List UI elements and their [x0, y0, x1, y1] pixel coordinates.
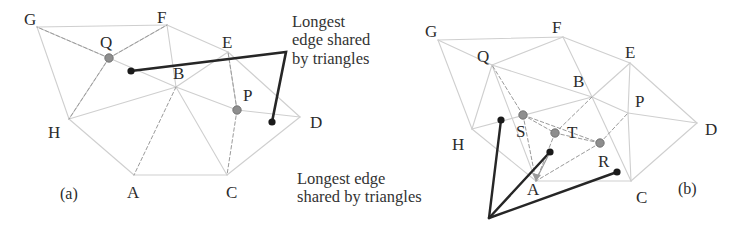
panel-b-vertex-label-H: H: [452, 135, 464, 154]
panel-a-edge: [109, 58, 176, 87]
panel-b-vertex-label-G: G: [425, 22, 437, 41]
panel-a-black-node-edge-start: [127, 67, 134, 74]
panel-a-caption: (a): [60, 185, 78, 203]
panel-b-vertex-label-R: R: [598, 152, 610, 171]
panel-a-annotation: Longestedge sharedby triangles: [292, 13, 370, 68]
panel-a-dashed-edge: [227, 110, 237, 175]
panel-b-vertex-label-F: F: [552, 18, 562, 37]
panel-b-gray-node-T: [551, 129, 559, 137]
panel-b-annotation: Longest edgeshared by triangles: [297, 170, 422, 207]
panel-a-edge: [237, 110, 300, 117]
panel-a-edge: [176, 87, 237, 110]
panel-a-vertex-label-D: D: [310, 113, 322, 132]
panel-b-vertex-label-S: S: [516, 122, 526, 141]
panel-a-vertex-label-C: C: [226, 183, 238, 202]
panel-b-vertex-label-P: P: [635, 92, 645, 111]
panel-a-vertex-label-G: G: [24, 10, 36, 29]
panel-a-vertex-label-Q: Q: [100, 33, 112, 52]
panel-b-annotation-line-1: shared by triangles: [297, 188, 422, 206]
panel-b-edge: [472, 65, 492, 129]
panel-b-edge: [592, 63, 630, 97]
panel-a-gray-node-Q: [105, 54, 113, 62]
panel-b-vertex-label-E: E: [625, 43, 636, 62]
panel-a-gray-node-P: [233, 106, 241, 114]
panel-b-gray-node-S: [519, 111, 527, 119]
panel-a-dashed-edge: [69, 58, 109, 119]
panel-b-vertex-label-D: D: [705, 120, 717, 139]
panel-a-edge: [69, 87, 176, 119]
panel-b-gray-node-R: [596, 139, 604, 147]
panel-a-annotation-line-0: Longest: [292, 13, 370, 31]
panel-a-edge: [227, 117, 300, 175]
panel-a-dashed-edge: [134, 87, 176, 175]
panel-a-vertex-label-H: H: [48, 123, 60, 142]
panel-a-vertex-label-E: E: [222, 33, 233, 52]
panel-a-annotation-line-2: by triangles: [292, 50, 370, 68]
panel-b-vertex-label-B: B: [573, 72, 585, 91]
panel-b-edge: [631, 123, 697, 181]
panel-a-dashed-edge: [37, 27, 109, 58]
panel-a-vertex-label-B: B: [173, 64, 185, 83]
panel-b-annotation-line-0: Longest edge: [297, 170, 422, 188]
panel-b-edge: [438, 37, 563, 40]
panel-b-black-node-fan-node-3: [613, 168, 620, 175]
panel-b-caption: (b): [678, 180, 697, 198]
panel-b-vertex-label-C: C: [636, 188, 648, 207]
panel-b-vertex-label-T: T: [567, 123, 578, 142]
panel-b-edge: [628, 63, 630, 113]
panel-b-edge: [563, 37, 630, 63]
panel-a-vertex-label-F: F: [157, 8, 167, 27]
panel-b-longest-edge-highlight: [489, 172, 617, 218]
panel-a-edge: [176, 87, 227, 175]
panel-b-dashed-edge: [492, 65, 523, 115]
panel-b-vertex-label-A: A: [527, 180, 539, 199]
panel-a-mesh: [37, 25, 300, 175]
panel-b-dashed-edge: [523, 115, 600, 143]
panel-b-edge: [628, 113, 697, 123]
panel-a-edge: [167, 25, 228, 52]
panel-a-edge: [69, 119, 134, 175]
panel-b-black-node-fan-node-2: [546, 148, 553, 155]
panel-a-edge: [37, 27, 69, 119]
panel-b-edge: [592, 97, 628, 113]
panel-b-longest-edge-highlight: [489, 120, 501, 218]
panel-b-dashed-edge: [600, 113, 628, 143]
panel-a-vertex-label-P: P: [243, 86, 253, 105]
panel-b-vertex-label-Q: Q: [477, 47, 489, 66]
panel-a-annotation-line-1: edge shared: [292, 31, 370, 49]
panel-a-black-node-edge-end: [268, 118, 275, 125]
panel-b-black-node-fan-node-1: [497, 116, 504, 123]
panel-b-dashed-edge: [523, 115, 555, 133]
panel-b-edge: [492, 37, 563, 65]
panel-a-edge: [37, 25, 167, 27]
panel-b-edge: [628, 113, 631, 181]
panel-a-vertex-label-A: A: [127, 183, 139, 202]
figure-root: GFQEBPDHAC(a)Longestedge sharedby triang…: [0, 0, 753, 241]
panel-a-longest-edge-highlight: [131, 52, 286, 122]
